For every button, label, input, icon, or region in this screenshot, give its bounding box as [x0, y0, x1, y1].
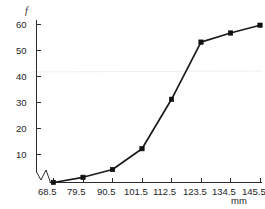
x-axis-title: mm — [231, 196, 247, 206]
y-tick-label-10: 10 — [16, 150, 27, 160]
data-point-112-5 — [169, 97, 173, 101]
y-tick-label-40: 40 — [16, 72, 27, 82]
y-axis-title: f — [25, 6, 28, 16]
y-tick-label-30: 30 — [16, 98, 27, 108]
x-tick-label-79-5: 79.5 — [67, 187, 86, 197]
x-tick-label-112-5: 112.5 — [153, 187, 176, 197]
chart-plot-area — [0, 0, 265, 209]
y-axis-break-zigzag — [37, 168, 51, 183]
y-tick-label-50: 50 — [16, 46, 27, 56]
data-point-79-5 — [81, 175, 85, 179]
x-tick-label-123-5: 123.5 — [183, 187, 207, 197]
cumulative-frequency-line — [54, 25, 261, 182]
x-tick-label-68-5: 68.5 — [38, 187, 57, 197]
y-tick-label-20: 20 — [16, 124, 27, 134]
data-point-134-5 — [228, 31, 232, 35]
background-artifact-line — [30, 71, 262, 72]
data-point-90-5 — [110, 167, 114, 171]
x-tick-label-101-5: 101.5 — [124, 187, 148, 197]
data-point-145-5 — [258, 23, 262, 27]
data-point-101-5 — [140, 147, 144, 151]
x-tick-label-90-5: 90.5 — [97, 187, 116, 197]
data-point-123-5 — [199, 40, 203, 44]
data-point-68-5 — [51, 180, 55, 184]
y-tick-label-60: 60 — [16, 20, 27, 30]
chart-figure: · · · · — [0, 0, 265, 209]
